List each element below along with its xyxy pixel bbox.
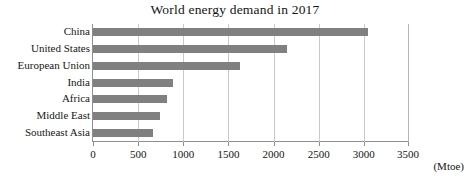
y-axis-label-southeast-asia: Southeast Asia — [2, 127, 90, 138]
table-row — [93, 58, 409, 75]
x-tick-mark-500 — [138, 142, 139, 146]
bar-united-states — [93, 45, 287, 53]
x-tick-mark-3000 — [364, 142, 365, 146]
x-tick-mark-2000 — [274, 142, 275, 146]
bar-africa — [93, 95, 167, 103]
bars-layer — [93, 24, 409, 142]
x-tick-mark-1000 — [183, 142, 184, 146]
x-axis-tick-label-1000: 1000 — [163, 148, 203, 160]
plot-area: 0 500 1000 1500 2000 2500 3000 3500 — [92, 24, 408, 142]
x-tick-mark-0 — [93, 142, 94, 146]
x-axis-unit-label: (Mtoe) — [433, 160, 464, 172]
x-axis-tick-label-3500: 3500 — [388, 148, 428, 160]
y-axis-label-european-union: European Union — [2, 60, 90, 71]
table-row — [93, 75, 409, 92]
y-axis-label-china: China — [2, 26, 90, 37]
bar-southeast-asia — [93, 129, 153, 137]
bar-india — [93, 79, 173, 87]
x-axis-tick-label-1500: 1500 — [208, 148, 248, 160]
x-tick-mark-2500 — [319, 142, 320, 146]
x-axis-tick-label-0: 0 — [73, 148, 113, 160]
y-axis-label-africa: Africa — [2, 93, 90, 104]
x-axis-tick-label-500: 500 — [118, 148, 158, 160]
bar-china — [93, 28, 368, 36]
table-row — [93, 91, 409, 108]
bar-chart: World energy demand in 2017 China United… — [0, 0, 470, 182]
y-axis-category-labels: China United States European Union India… — [0, 24, 90, 142]
table-row — [93, 108, 409, 125]
table-row — [93, 24, 409, 41]
table-row — [93, 41, 409, 58]
table-row — [93, 125, 409, 142]
x-axis-tick-label-2000: 2000 — [254, 148, 294, 160]
y-axis-label-india: India — [2, 77, 90, 88]
x-tick-mark-1500 — [228, 142, 229, 146]
y-axis-label-united-states: United States — [2, 43, 90, 54]
chart-title: World energy demand in 2017 — [0, 2, 470, 18]
x-tick-mark-3500 — [408, 142, 409, 146]
x-axis-tick-label-3000: 3000 — [344, 148, 384, 160]
x-axis-tick-label-2500: 2500 — [299, 148, 339, 160]
bar-middle-east — [93, 112, 160, 120]
bar-european-union — [93, 62, 240, 70]
y-axis-label-middle-east: Middle East — [2, 110, 90, 121]
